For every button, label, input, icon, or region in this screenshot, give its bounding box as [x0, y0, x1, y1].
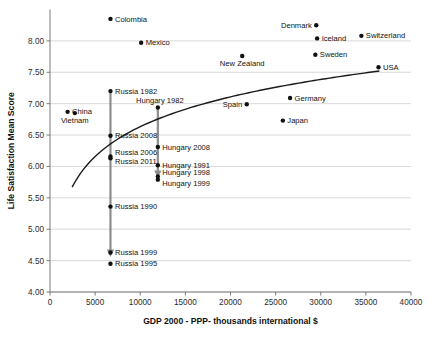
data-point	[108, 17, 112, 21]
point-label: Vietnam	[61, 116, 89, 125]
x-tick-label: 20000	[219, 298, 242, 307]
point-label: Mexico	[146, 38, 170, 47]
point-label: Switzerland	[366, 31, 405, 40]
point-label: USA	[383, 63, 400, 72]
data-point	[240, 54, 244, 58]
x-tick-label: 10000	[129, 298, 152, 307]
point-label: Russia 1990	[115, 202, 157, 211]
point-label: Russia 2006	[115, 148, 157, 157]
point-label: Sweden	[320, 50, 347, 59]
scatter-chart: 4.004.505.005.506.006.507.007.508.00 050…	[0, 0, 434, 337]
axis-lines	[50, 10, 411, 293]
data-point	[156, 177, 160, 181]
x-tick-label: 15000	[174, 298, 197, 307]
point-label: Hungary 1998	[162, 168, 210, 177]
data-point	[288, 96, 292, 100]
data-point	[108, 204, 112, 208]
data-point	[108, 250, 112, 254]
data-point	[108, 262, 112, 266]
x-tick-label: 40000	[400, 298, 423, 307]
gridlines	[50, 41, 411, 292]
x-tick-label: 5000	[86, 298, 105, 307]
point-label: Denmark	[281, 21, 312, 30]
data-point	[313, 53, 317, 57]
data-point	[108, 133, 112, 137]
point-label: Spain	[223, 100, 242, 109]
point-label: Hungary 1999	[162, 179, 210, 188]
point-label: Germany	[295, 94, 326, 103]
point-label: Russia 1999	[115, 248, 157, 257]
data-point	[156, 105, 160, 109]
y-axis-ticks: 4.004.505.005.506.006.507.007.508.00	[28, 37, 50, 297]
x-tick-label: 30000	[309, 298, 332, 307]
x-axis-title: GDP 2000 - PPP- thousands international …	[143, 316, 318, 326]
plot-canvas: 4.004.505.005.506.006.507.007.508.00 050…	[0, 0, 434, 337]
point-label: Russia 2008	[115, 131, 157, 140]
y-tick-label: 8.00	[28, 37, 44, 46]
data-point	[376, 65, 380, 69]
y-tick-label: 7.00	[28, 100, 44, 109]
y-tick-label: 4.00	[28, 288, 44, 297]
y-tick-label: 4.50	[28, 257, 44, 266]
y-axis-title: Life Satisfaction Mean Score	[6, 92, 16, 209]
x-tick-label: 25000	[264, 298, 287, 307]
y-tick-label: 6.00	[28, 162, 44, 171]
annotation-arrows	[107, 91, 162, 257]
point-label: Russia 2011	[115, 157, 157, 166]
x-axis-ticks: 0500010000150002000025000300003500040000	[48, 292, 423, 307]
data-point	[65, 110, 69, 114]
y-tick-label: 7.50	[28, 68, 44, 77]
point-label: New Zealand	[220, 59, 265, 68]
data-point	[108, 89, 112, 93]
data-point-labels: ColombiaDenmarkIcelandSwitzerlandMexicoS…	[61, 15, 405, 269]
y-tick-label: 5.00	[28, 225, 44, 234]
point-label: Russia 1982	[115, 87, 157, 96]
data-point	[139, 41, 143, 45]
y-tick-label: 5.50	[28, 194, 44, 203]
data-point	[245, 102, 249, 106]
data-point	[281, 118, 285, 122]
point-label: Iceland	[322, 34, 347, 43]
point-label: Colombia	[115, 15, 148, 24]
point-label: China	[72, 107, 93, 116]
point-label: Hungary 2008	[162, 143, 210, 152]
y-tick-label: 6.50	[28, 131, 44, 140]
data-point	[359, 34, 363, 38]
point-label: Russia 1995	[115, 259, 157, 268]
data-point	[315, 36, 319, 40]
data-point	[108, 156, 112, 160]
x-tick-label: 35000	[354, 298, 377, 307]
point-label: Hungary 1982	[136, 96, 184, 105]
point-label: Japan	[287, 116, 308, 125]
data-point	[314, 23, 318, 27]
x-tick-label: 0	[48, 298, 53, 307]
